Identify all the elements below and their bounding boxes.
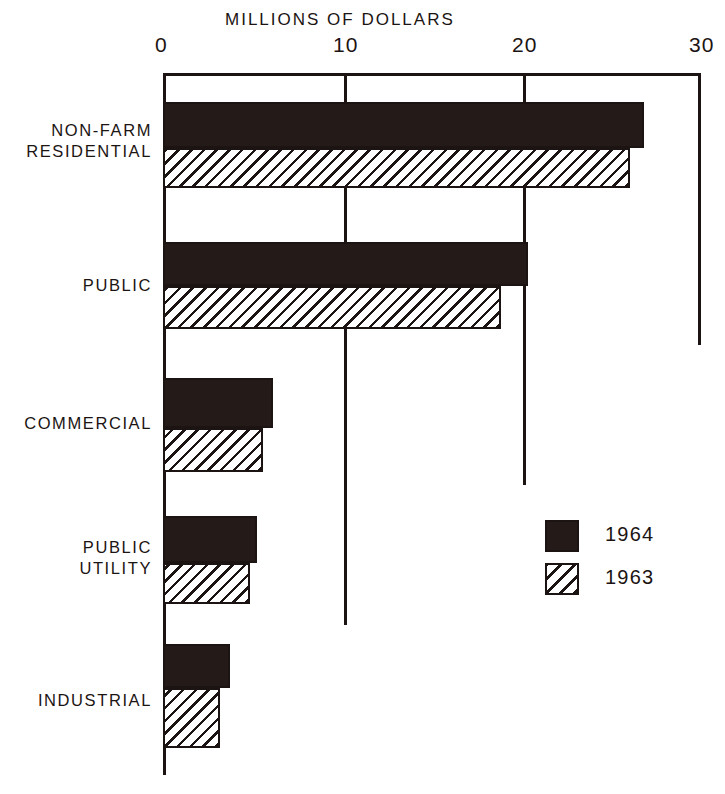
legend-swatch-hatched-icon (545, 563, 579, 595)
bar-1963-public-utility (163, 563, 250, 604)
bar-1963-public (163, 286, 501, 329)
category-label-non-farm-residential: NON-FARM RESIDENTIAL (26, 120, 152, 162)
category-label-public-utility: PUBLIC UTILITY (79, 537, 152, 579)
legend-label-1963: 1963 (605, 566, 654, 589)
x-tick-label-0: 0 (155, 33, 168, 57)
x-tick-label-30: 30 (689, 33, 714, 57)
bar-1964-public (163, 242, 528, 286)
bar-1964-commercial (163, 378, 273, 428)
bar-1964-industrial (163, 644, 230, 688)
category-label-public: PUBLIC (83, 275, 152, 296)
legend-label-1964: 1964 (605, 523, 654, 546)
x-tick-label-20: 20 (512, 33, 537, 57)
bar-1963-non-farm-residential (163, 148, 630, 188)
bar-chart: MILLIONS OF DOLLARS 0 10 20 30 NON-FARM … (0, 0, 725, 794)
chart-title: MILLIONS OF DOLLARS (225, 10, 525, 30)
bar-1964-public-utility (163, 516, 257, 563)
bar-1963-industrial (163, 688, 220, 748)
bar-1963-commercial (163, 428, 263, 472)
bar-1964-non-farm-residential (163, 102, 644, 148)
legend-swatch-solid-icon (545, 520, 579, 552)
gridline-30 (698, 73, 701, 345)
x-tick-label-10: 10 (333, 33, 358, 57)
category-label-commercial: COMMERCIAL (24, 413, 152, 434)
x-axis-line (163, 73, 700, 76)
category-label-industrial: INDUSTRIAL (38, 690, 152, 711)
